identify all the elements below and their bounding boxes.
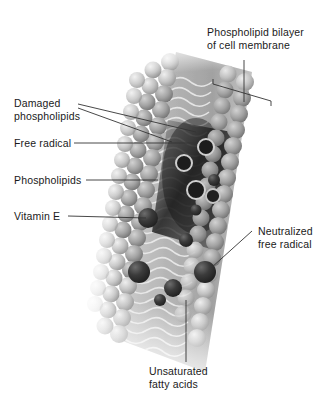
label-vitamin-e: Vitamin E [14, 210, 60, 223]
label-neutralized-free-radical: Neutralized free radical [258, 225, 313, 250]
label-free-radical: Free radical [14, 137, 71, 150]
phospholipid-bilayer-figure: Phospholipid bilayer of cell membrane Da… [0, 0, 335, 414]
membrane-illustration [0, 0, 335, 414]
label-unsaturated-fatty-acids: Unsaturated fatty acids [149, 365, 208, 390]
label-damaged-phospholipids: Damaged phospholipids [14, 97, 80, 122]
label-phospholipid-bilayer: Phospholipid bilayer of cell membrane [207, 26, 304, 51]
label-phospholipids: Phospholipids [14, 174, 81, 187]
